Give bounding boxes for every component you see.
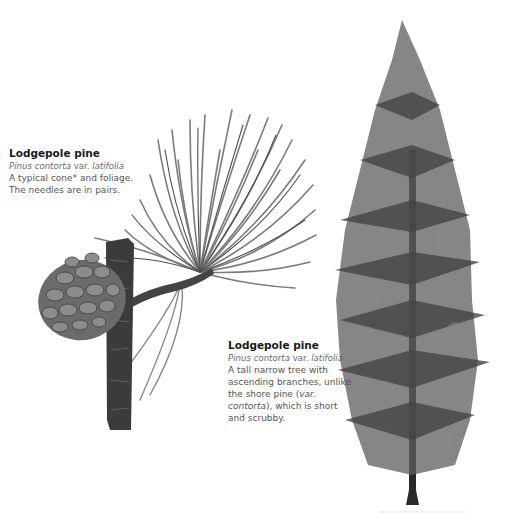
caption-title: Lodgepole pine — [228, 339, 360, 352]
caption-line-4: contorta), which is short — [228, 400, 360, 412]
caption-line-1: A typical cone* and foliage. — [9, 172, 169, 184]
caption-cone-foliage: Lodgepole pine Pinus contorta var. latif… — [9, 147, 169, 196]
caption-line-1: A tall narrow tree with — [228, 364, 360, 376]
caption-tree: Lodgepole pine Pinus contorta var. latif… — [228, 339, 360, 424]
caption-latin-name: Pinus contorta var. latifolia — [228, 352, 360, 364]
pine-tree-illustration — [0, 0, 511, 531]
caption-line-5: and scrubby. — [228, 412, 360, 424]
caption-line-2: ascending branches, unlike — [228, 376, 360, 388]
caption-line-2: The needles are in pairs. — [9, 184, 169, 196]
caption-latin-name: Pinus contorta var. latifolia — [9, 160, 169, 172]
caption-line-3: the shore pine (var. — [228, 388, 360, 400]
caption-title: Lodgepole pine — [9, 147, 169, 160]
